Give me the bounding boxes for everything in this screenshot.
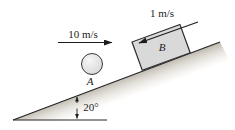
ball-a <box>82 54 103 75</box>
incline-collision-diagram: 20° B 1 m/s A 10 m/s <box>0 0 235 130</box>
incline-angle-label: 20° <box>83 101 98 113</box>
ball-velocity-label: 10 m/s <box>68 28 98 40</box>
block-velocity-label: 1 m/s <box>150 7 174 19</box>
incline-shading <box>13 42 229 121</box>
physics-figure: 20° B 1 m/s A 10 m/s <box>0 0 235 130</box>
ball-a-label: A <box>86 75 94 87</box>
block-b-label: B <box>159 41 166 53</box>
